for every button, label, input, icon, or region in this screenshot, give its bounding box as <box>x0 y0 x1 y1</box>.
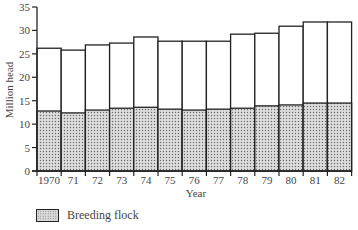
legend: Breeding flock <box>36 208 139 223</box>
x-tick-label: 82 <box>334 174 345 186</box>
x-tick-label: 73 <box>116 174 128 186</box>
x-tick-label: 75 <box>165 174 177 186</box>
bar-breeding-flock <box>158 109 182 171</box>
bar-breeding-flock <box>182 110 206 171</box>
x-tick-label: 74 <box>140 174 152 186</box>
y-tick-label: 35 <box>19 1 31 13</box>
bar-breeding-flock <box>37 111 61 171</box>
y-tick-label: 15 <box>19 95 31 107</box>
bar-breeding-flock <box>303 103 327 171</box>
bar-breeding-flock <box>61 113 85 171</box>
y-axis: 05101520253035 <box>19 1 37 177</box>
x-tick-label: 77 <box>213 174 225 186</box>
x-tick-label: 1970 <box>38 174 61 186</box>
y-tick-label: 0 <box>25 165 31 177</box>
x-tick-label: 71 <box>68 174 79 186</box>
x-axis-title: Year <box>186 187 207 199</box>
legend-swatch-breeding-flock <box>36 209 59 222</box>
bar-breeding-flock <box>255 106 279 171</box>
bar-breeding-flock <box>279 105 303 171</box>
x-tick-label: 79 <box>261 174 273 186</box>
bar-breeding-flock <box>134 107 158 171</box>
x-tick-label: 72 <box>92 174 103 186</box>
x-tick-label: 81 <box>310 174 321 186</box>
bar-breeding-flock <box>327 103 351 171</box>
chart: 05101520253035 1970717273747576777879808… <box>0 0 358 230</box>
x-tick-label: 80 <box>286 174 298 186</box>
y-tick-label: 25 <box>19 48 31 60</box>
bar-breeding-flock <box>110 108 134 171</box>
bar-breeding-flock <box>85 110 109 171</box>
x-axis: 1970717273747576777879808182 <box>32 171 352 186</box>
y-tick-label: 20 <box>19 71 31 83</box>
y-tick-label: 10 <box>19 118 31 130</box>
legend-label: Breeding flock <box>67 208 139 223</box>
bar-breeding-flock <box>231 108 255 171</box>
bars-group <box>37 22 352 171</box>
y-tick-label: 30 <box>19 24 31 36</box>
y-tick-label: 5 <box>25 142 31 154</box>
x-tick-label: 76 <box>189 174 201 186</box>
y-axis-title: Million head <box>3 61 15 118</box>
bar-breeding-flock <box>206 109 230 171</box>
x-tick-label: 78 <box>237 174 249 186</box>
